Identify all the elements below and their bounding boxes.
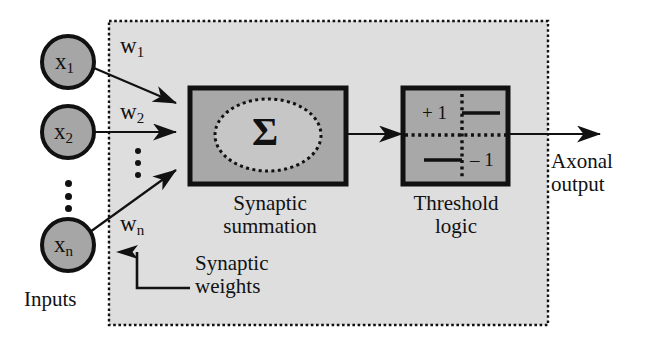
weight-sub-w1: 1: [137, 44, 145, 60]
weight-sub-w2: 2: [137, 110, 145, 126]
ellipsis-dot: [65, 180, 72, 187]
input-base-x1: x: [55, 49, 67, 74]
input-base-x2: x: [54, 119, 66, 144]
input-sub-x2: 2: [66, 130, 74, 146]
synaptic-weights-annotation: Synaptic weights: [195, 252, 269, 297]
synaptic-weights-line1: Synaptic: [195, 252, 269, 275]
weight-label-wn: wn: [120, 212, 144, 238]
threshold-high-value: + 1: [422, 103, 447, 124]
ellipsis-dot: [65, 205, 72, 212]
input-sub-xn: n: [66, 243, 74, 259]
weights-ellipsis: [134, 148, 142, 178]
input-node-label-x2: x2: [54, 120, 73, 146]
weight-label-w1: w1: [120, 34, 144, 60]
summation-caption-line2: summation: [185, 215, 355, 238]
axonal-output-line1: Axonal: [551, 150, 613, 173]
ellipsis-dot: [65, 193, 72, 200]
axonal-output-label: Axonal output: [551, 150, 613, 195]
threshold-caption-line1: Threshold: [385, 192, 527, 215]
axonal-output-line2: output: [551, 173, 613, 196]
weight-base-wn: w: [120, 211, 137, 236]
neuron-diagram-canvas: x1 x2 xn Inputs w1 w2 wn Synaptic weight…: [0, 0, 660, 342]
inputs-label: Inputs: [24, 288, 77, 311]
weight-base-w1: w: [120, 33, 137, 58]
summation-symbol: Σ: [252, 110, 278, 153]
weight-label-w2: w2: [120, 100, 144, 126]
summation-caption: Synaptic summation: [185, 192, 355, 237]
weight-sub-wn: n: [137, 222, 145, 238]
threshold-caption-line2: logic: [385, 215, 527, 238]
ellipsis-dot: [135, 172, 141, 178]
threshold-caption: Threshold logic: [385, 192, 527, 237]
weight-base-w2: w: [120, 99, 137, 124]
input-node-label-x1: x1: [55, 50, 74, 76]
input-base-xn: x: [54, 232, 66, 257]
input-sub-x1: 1: [67, 60, 75, 76]
summation-caption-line1: Synaptic: [185, 192, 355, 215]
synaptic-weights-line2: weights: [195, 275, 269, 298]
input-node-label-xn: xn: [54, 233, 73, 259]
threshold-low-value: – 1: [470, 150, 494, 171]
ellipsis-dot: [135, 160, 141, 166]
ellipsis-dot: [135, 148, 141, 154]
input-ellipsis: [64, 180, 73, 212]
